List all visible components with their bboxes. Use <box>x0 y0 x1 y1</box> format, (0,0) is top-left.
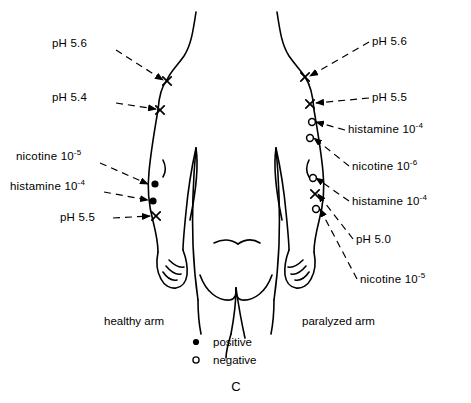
thigh-gap-right <box>236 288 245 338</box>
legend-negative-label: negative <box>213 354 256 366</box>
left-finger-3 <box>169 260 184 267</box>
label-right-r7: nicotine 10-5 <box>360 271 426 285</box>
marker-negative-right-2 <box>309 119 316 126</box>
right-hand-contour <box>285 250 315 288</box>
test-site-markers <box>149 73 319 220</box>
label-left-l5: pH 5.5 <box>60 211 95 223</box>
hip-left-contour <box>198 300 201 334</box>
gluteal-cleft <box>231 288 236 334</box>
legend: positive negative <box>193 336 257 366</box>
hip-right-contour <box>271 300 274 334</box>
leader-lines <box>100 42 369 279</box>
marker-x-right-5 <box>311 190 319 198</box>
label-right-r6: pH 5.0 <box>356 233 391 245</box>
marker-negative-right-3 <box>307 135 314 142</box>
right-arm-labels: pH 5.6pH 5.5histamine 10-4nicotine 10-6h… <box>348 35 427 285</box>
leader-l3 <box>100 163 148 184</box>
label-right-r4: nicotine 10-6 <box>352 158 418 172</box>
buttock-right <box>236 275 272 300</box>
leader-l2 <box>116 103 156 109</box>
marker-negative-right-4 <box>310 175 317 182</box>
leader-l5 <box>113 216 150 218</box>
label-left-l3: nicotine 10-5 <box>16 148 82 162</box>
caption-healthy-arm: healthy arm <box>104 315 164 327</box>
marker-negative-right-6 <box>313 206 320 213</box>
legend-filled-dot-icon <box>193 339 199 345</box>
legend-positive-label: positive <box>213 336 252 348</box>
left-hand-contour <box>157 250 187 288</box>
leader-l4 <box>104 192 148 200</box>
buttock-left <box>200 275 236 300</box>
label-right-r1: pH 5.6 <box>372 35 407 47</box>
label-right-r5: histamine 10-4 <box>352 193 427 207</box>
lower-back-crease-right <box>238 240 260 244</box>
annotated-body-diagram: pH 5.6pH 5.4nicotine 10-5histamine 10-4p… <box>0 0 471 403</box>
marker-x-left-1 <box>156 106 164 114</box>
neck-left-contour <box>167 12 196 80</box>
label-right-r3: histamine 10-4 <box>348 121 423 135</box>
caption-paralyzed-arm: paralyzed arm <box>302 315 375 327</box>
leader-r4 <box>314 138 349 166</box>
right-elbow-crease <box>307 160 309 177</box>
marker-positive-left-3 <box>149 197 156 204</box>
right-finger-3 <box>288 260 303 267</box>
lower-back-crease-left <box>214 240 238 244</box>
leader-r1 <box>310 42 369 76</box>
marker-positive-left-2 <box>151 180 158 187</box>
legend-open-circle-icon <box>193 357 199 363</box>
leader-r3 <box>316 122 345 130</box>
label-right-r2: pH 5.5 <box>372 91 407 103</box>
marker-x-left-4 <box>152 212 160 220</box>
left-arm-labels: pH 5.6pH 5.4nicotine 10-5histamine 10-4p… <box>10 37 95 223</box>
body-outline <box>148 12 324 358</box>
marker-x-right-0 <box>301 73 309 81</box>
leader-r2 <box>316 98 369 103</box>
label-left-l1: pH 5.6 <box>52 37 87 49</box>
label-left-l2: pH 5.4 <box>52 91 87 103</box>
neck-right-contour <box>277 12 305 77</box>
left-elbow-crease <box>163 160 165 177</box>
label-left-l4: histamine 10-4 <box>10 178 85 192</box>
leader-l1 <box>116 50 163 80</box>
figure-letter: C <box>231 379 240 394</box>
